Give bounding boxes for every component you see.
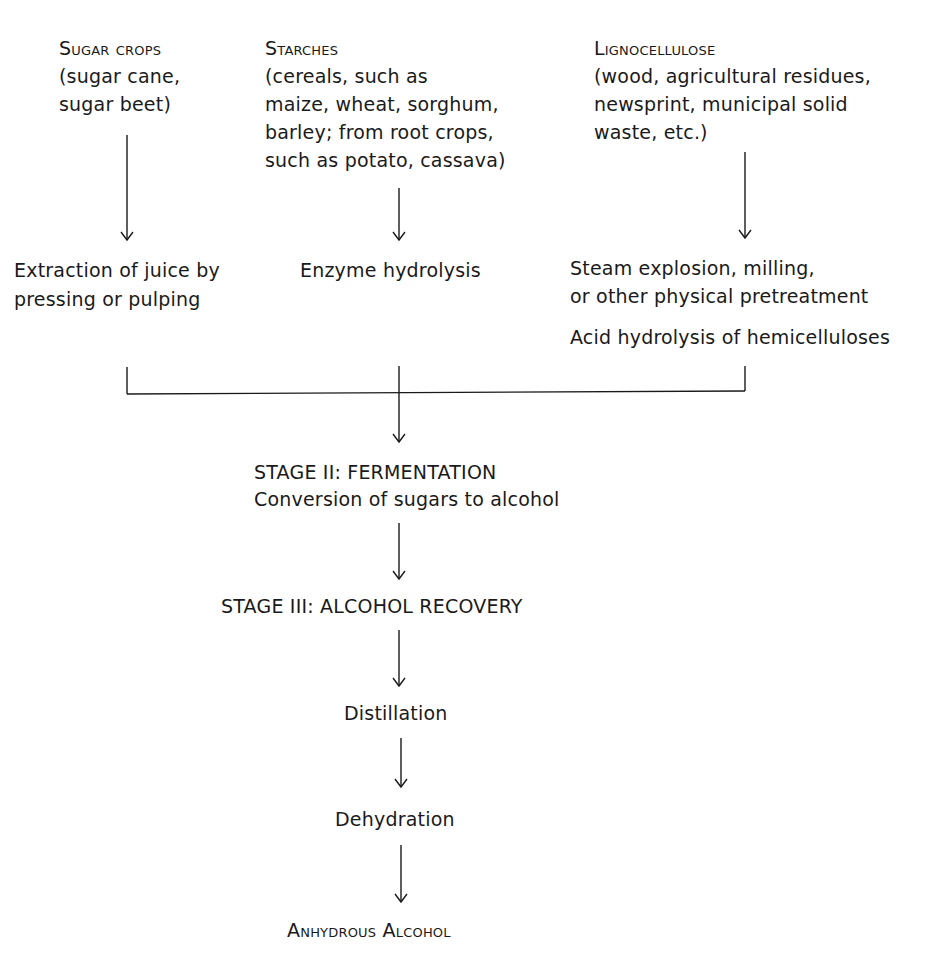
feedstock-description: newsprint, municipal solid [594,92,848,116]
arrow-down-icon [393,394,405,442]
feedstock-description: (sugar cane, [59,64,180,88]
step-dehydration: Dehydration [335,807,455,831]
process-step: Enzyme hydrolysis [300,258,481,282]
stage-title: STAGE III: ALCOHOL RECOVERY [221,594,523,618]
process-step: Extraction of juice by [14,258,220,282]
final-product: Anhydrous Alcohol [287,918,451,942]
arrow-down-icon [393,523,405,579]
feedstock-title: Starches [265,36,338,60]
feedstock-description: sugar beet) [59,92,171,116]
feedstock-title: Sugar Crops [59,36,161,60]
feedstock-title: Lignocellulose [594,36,715,60]
arrow-down-icon [121,135,133,240]
feedstock-description: maize, wheat, sorghum, [265,92,499,116]
process-step: Steam explosion, milling, [570,256,815,280]
arrow-down-icon [739,152,751,238]
feedstock-description: (cereals, such as [265,64,428,88]
feedstock-description: (wood, agricultural residues, [594,64,871,88]
feedstock-description: barley; from root crops, [265,120,494,144]
arrow-down-icon [395,738,407,787]
stage-subtitle: Conversion of sugars to alcohol [254,487,560,511]
stage-title: STAGE II: FERMENTATION [254,460,496,484]
arrow-down-icon [395,845,407,902]
arrow-down-icon [393,188,405,240]
feedstock-description: such as potato, cassava) [265,148,506,172]
arrow-down-icon [393,630,405,686]
process-step: Acid hydrolysis of hemicelluloses [570,325,890,349]
step-distillation: Distillation [344,701,448,725]
merge-bracket [127,366,745,394]
process-step: pressing or pulping [14,287,200,311]
feedstock-description: waste, etc.) [594,120,708,144]
process-step: or other physical pretreatment [570,284,869,308]
